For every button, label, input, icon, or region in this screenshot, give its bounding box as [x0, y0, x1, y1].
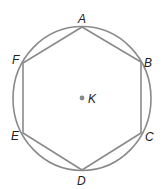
center-label: K — [88, 92, 97, 106]
vertex-label-c: C — [145, 130, 154, 144]
center-point-dot — [80, 96, 85, 101]
vertex-label-a: A — [77, 12, 86, 26]
hexagon-circle-diagram: K ABCDEF — [0, 0, 162, 189]
vertex-label-d: D — [77, 174, 86, 188]
vertex-label-f: F — [12, 53, 20, 67]
vertex-label-e: E — [11, 129, 20, 143]
vertex-label-b: B — [144, 56, 152, 70]
